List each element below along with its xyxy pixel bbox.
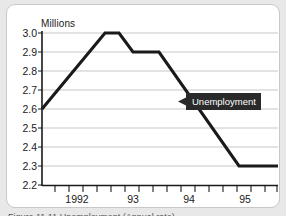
annotation-label: Unemployment — [192, 96, 256, 107]
y-tick-label: 2.5 — [22, 122, 37, 134]
x-tick-label: 94 — [183, 193, 195, 205]
y-tick-label: 2.2 — [22, 179, 37, 191]
y-tick-label: 2.6 — [22, 103, 37, 115]
y-tick-label: 2.8 — [22, 65, 37, 77]
line-chart-plot: 3.0 2.9 2.8 2.7 2.6 2.5 2.4 2.3 2.2 — [7, 5, 280, 208]
y-tick-label: 2.4 — [22, 141, 37, 153]
x-tick-label: 95 — [239, 193, 251, 205]
y-tick-label: 2.9 — [22, 46, 37, 58]
x-tick-label: 1992 — [65, 193, 89, 205]
figure-caption: Figure 11.11 Unemployment (Annual rate) — [8, 212, 286, 216]
y-axis-labels: 3.0 2.9 2.8 2.7 2.6 2.5 2.4 2.3 2.2 — [22, 27, 42, 191]
y-tick-label: 2.3 — [22, 160, 37, 172]
x-axis-labels: 1992 93 94 95 — [65, 193, 251, 205]
y-tick-label: 3.0 — [22, 27, 37, 39]
annotation-unemployment: Unemployment — [178, 93, 261, 110]
x-tick-label: 93 — [127, 193, 139, 205]
figure-card: Millions 3.0 2.9 2.8 2.7 2.6 2.5 2.4 2.3… — [6, 4, 280, 208]
y-tick-label: 2.7 — [22, 84, 37, 96]
